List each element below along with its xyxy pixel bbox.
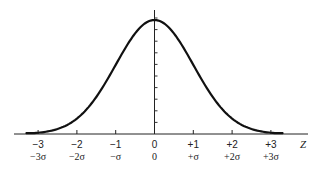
axes [14,10,308,134]
x-tick-label: 0 [152,139,158,150]
x-sigma-label: +σ [188,151,200,162]
x-sigma-label: −σ [110,151,122,162]
normal-distribution-chart: −3−3σ−2−2σ−1−σ00+1+σ+2+2σ+3+3σ Z [0,0,323,170]
x-sigma-label: 0 [152,151,157,162]
x-sigma-label: +3σ [263,151,280,162]
x-tick-label: −3 [32,139,44,150]
x-tick-label: +3 [265,139,277,150]
x-tick-label: −2 [71,139,83,150]
x-sigma-label: +2σ [224,151,241,162]
x-sigma-label: −2σ [69,151,86,162]
x-axis-title: Z [300,138,307,150]
x-tick-label: +2 [226,139,238,150]
x-tick-label: −1 [110,139,122,150]
x-tick-labels: −3−3σ−2−2σ−1−σ00+1+σ+2+2σ+3+3σ [30,139,279,162]
x-sigma-label: −3σ [30,151,47,162]
x-tick-label: +1 [188,139,200,150]
